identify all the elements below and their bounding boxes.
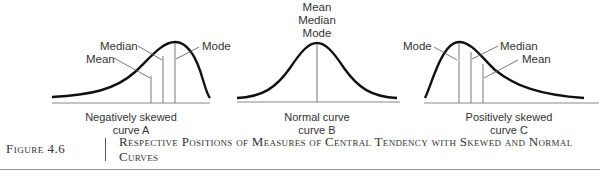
curve-c-mean-label: Mean [522, 53, 551, 65]
curve-b-mean-label: Mean [303, 1, 332, 13]
bottom-rule [0, 169, 600, 170]
curve-a-mean-label: Mean [86, 53, 115, 65]
curve-c-median-leader [472, 46, 498, 59]
caption-divider [105, 138, 106, 161]
figure-number: Figure 4.6 [6, 141, 65, 157]
figure-title: Respective Positions of Measures of Cent… [119, 134, 609, 164]
curve-c-group: Mode Median Mean Positively skewed curve… [403, 40, 599, 136]
curve-b-group: Mean Median Mode Normal curve curve B [237, 1, 400, 136]
curve-c-mode-label: Mode [403, 40, 432, 52]
curve-c-caption-line1: Positively skewed [466, 111, 553, 123]
curve-c-mode-leader [434, 47, 457, 60]
curve-b-caption-line1: Normal curve [284, 111, 349, 123]
curve-b-mode-label: Mode [303, 27, 332, 39]
curve-a-group: Median Mean Mode Negatively skewed curve… [52, 40, 231, 136]
curve-a-median-label: Median [100, 40, 138, 52]
curve-b-median-label: Median [298, 14, 336, 26]
curve-c-median-label: Median [500, 40, 538, 52]
curve-a-mode-label: Mode [202, 40, 231, 52]
curve-a-caption-line1: Negatively skewed [85, 111, 177, 123]
